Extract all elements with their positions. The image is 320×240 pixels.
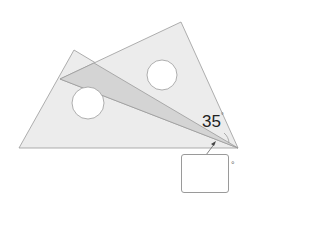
hole-right	[147, 60, 177, 90]
angle-label: 35°	[202, 112, 224, 131]
answer-input-box[interactable]	[181, 154, 229, 193]
hole-left	[72, 87, 104, 119]
answer-degree-unit: °	[231, 160, 235, 170]
